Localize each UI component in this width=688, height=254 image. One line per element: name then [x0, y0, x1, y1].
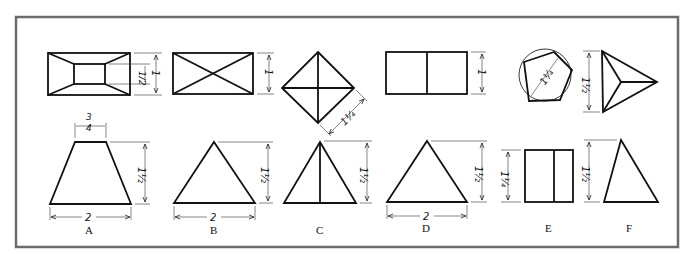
- dim-d-height: 1½: [473, 166, 484, 182]
- label-c: C: [316, 224, 323, 236]
- dim-a-inner: 1/2: [137, 71, 147, 86]
- dim-a-top-den: 4: [86, 123, 92, 133]
- dim-d-base: 2: [423, 211, 429, 222]
- dim-a-outer: 1: [150, 70, 161, 76]
- dim-f-height: 1½: [580, 166, 591, 182]
- orthographic-projection-exercise: 1/2 1 3 4 1½ 2 A: [0, 0, 688, 254]
- dim-a-base: 2: [85, 212, 91, 223]
- label-b: B: [210, 224, 217, 236]
- dim-d-depth: 1: [476, 69, 487, 75]
- dim-a-top-num: 3: [86, 112, 92, 122]
- label-e: E: [545, 222, 552, 234]
- dim-c-height: 1½: [358, 167, 369, 183]
- label-f: F: [626, 222, 632, 234]
- label-d: D: [422, 222, 430, 234]
- dim-a-height: 1½: [136, 167, 147, 183]
- label-a: A: [85, 224, 93, 236]
- dim-e-height: 1¼: [499, 171, 510, 187]
- dim-b-height: 1½: [259, 167, 270, 183]
- dim-f-depth: 1½: [580, 77, 591, 93]
- dim-b-base: 2: [210, 212, 216, 223]
- drawing-frame: [16, 17, 678, 247]
- dim-b-depth: 1: [263, 69, 274, 75]
